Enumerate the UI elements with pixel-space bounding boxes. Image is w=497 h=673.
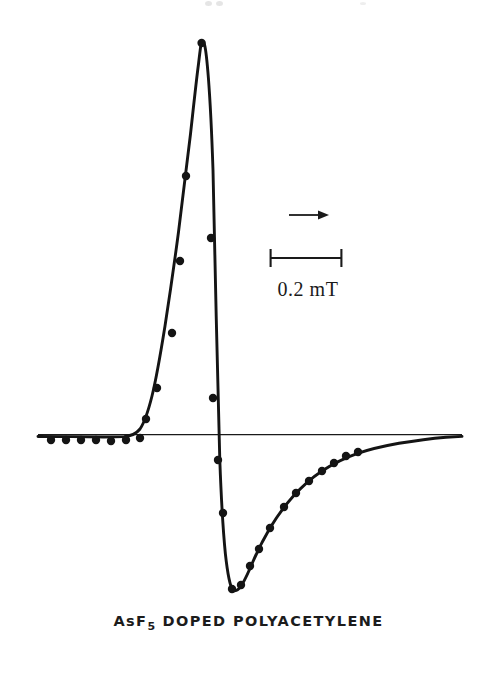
data-point-trough xyxy=(228,585,236,593)
data-point xyxy=(168,329,176,337)
data-point xyxy=(182,172,190,180)
data-point xyxy=(136,434,144,442)
data-point xyxy=(207,234,215,242)
data-point xyxy=(47,436,55,444)
data-point xyxy=(153,384,161,392)
data-point xyxy=(209,394,217,402)
data-point xyxy=(330,459,338,467)
data-point xyxy=(219,509,227,517)
data-point xyxy=(92,436,100,444)
data-point xyxy=(176,257,184,265)
scale-bar-label: 0.2 mT xyxy=(240,278,376,301)
data-point xyxy=(255,545,263,553)
caption-description: DOPED POLYACETYLENE xyxy=(163,613,384,629)
data-point xyxy=(342,452,350,460)
data-point xyxy=(266,524,274,532)
data-point xyxy=(354,448,362,456)
data-point xyxy=(77,436,85,444)
figure-caption: AsF5DOPED POLYACETYLENE xyxy=(0,613,497,633)
data-point xyxy=(107,437,115,445)
data-point xyxy=(292,489,300,497)
scale-bar xyxy=(270,249,342,267)
caption-subscript: 5 xyxy=(147,620,155,633)
data-point-peak xyxy=(197,39,205,47)
esr-spectrum-figure: 0.2 mT AsF5DOPED POLYACETYLENE xyxy=(0,0,497,673)
data-point xyxy=(142,415,150,423)
data-point xyxy=(318,467,326,475)
spectrum-curve xyxy=(38,42,462,591)
data-point xyxy=(122,436,130,444)
data-point xyxy=(246,562,254,570)
data-point xyxy=(237,581,245,589)
data-point xyxy=(214,456,222,464)
caption-compound-name: AsF xyxy=(113,613,147,629)
data-point xyxy=(62,436,70,444)
field-sweep-direction-arrow xyxy=(289,210,329,219)
spectrum-plot-canvas xyxy=(0,0,497,673)
data-point xyxy=(280,503,288,511)
data-point xyxy=(305,477,313,485)
